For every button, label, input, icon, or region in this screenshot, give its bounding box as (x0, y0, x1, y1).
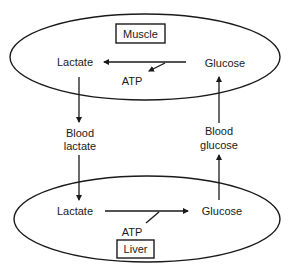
muscle-glucose-label: Glucose (205, 57, 245, 69)
cori-cycle-diagram: Muscle Lactate Glucose ATP Blood lactate… (0, 0, 289, 276)
liver-atp-label: ATP (122, 226, 143, 238)
blood-glucose-line2: glucose (200, 139, 238, 151)
liver-atp-input-line (146, 212, 159, 223)
muscle-compartment: Muscle Lactate Glucose ATP (10, 14, 280, 100)
liver-glucose-label: Glucose (202, 205, 242, 217)
blood-lactate-line1: Blood (66, 127, 94, 139)
blood-glucose-line1: Blood (205, 125, 233, 137)
muscle-lactate-label: Lactate (57, 56, 93, 68)
liver-lactate-label: Lactate (57, 205, 93, 217)
liver-label: Liver (124, 243, 148, 255)
muscle-atp-label: ATP (122, 75, 143, 87)
blood-lactate-line2: lactate (64, 140, 96, 152)
muscle-label: Muscle (123, 28, 158, 40)
liver-compartment: Lactate Glucose ATP Liver (14, 176, 280, 262)
muscle-atp-branch-arrow (149, 63, 165, 71)
